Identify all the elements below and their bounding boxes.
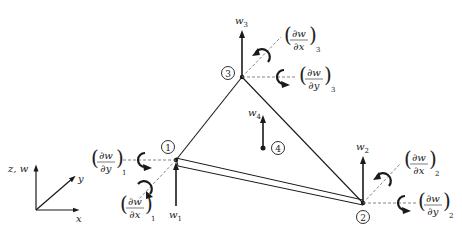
svg-text:∂y: ∂y [309, 80, 320, 91]
svg-text:∂w: ∂w [128, 196, 142, 207]
plate-element-diagram: z, w y x 3 w3 ( ∂w ∂x ) [0, 0, 462, 240]
svg-text:): ) [324, 63, 332, 87]
w3-label: w3 [235, 15, 248, 29]
x-axis-label: x [76, 213, 82, 224]
node-2-dwdx-label: ( ∂w ∂x ) 2 [404, 147, 439, 178]
node-3-dwdy-label: ( ∂w ∂y ) 3 [299, 63, 335, 94]
node-2-dwdy-label: ( ∂w ∂y ) 2 [418, 189, 453, 220]
node-2-x-dash [363, 163, 401, 203]
svg-text:): ) [429, 147, 437, 171]
svg-text:(: ( [120, 192, 128, 216]
triangle-element [176, 77, 363, 205]
svg-text:∂x: ∂x [294, 41, 305, 52]
edge-3-1 [176, 77, 242, 160]
node-1-dwdx-label: ( ∂w ∂x ) 1 [120, 192, 155, 223]
svg-text:∂y: ∂y [101, 163, 112, 174]
svg-text:∂w: ∂w [412, 152, 426, 163]
svg-text:∂y: ∂y [428, 206, 439, 217]
svg-text:1: 1 [122, 169, 126, 177]
w1-label: w1 [169, 209, 182, 223]
edge-3-2 [242, 77, 363, 203]
coordinate-axes: z, w y x [7, 163, 84, 224]
svg-text:): ) [145, 192, 153, 216]
node-2-label: 2 [360, 213, 366, 223]
svg-text:∂x: ∂x [414, 165, 425, 176]
svg-text:∂w: ∂w [99, 150, 113, 161]
node-1-dwdy-label: ( ∂w ∂y ) 1 [91, 146, 126, 177]
svg-text:2: 2 [449, 212, 453, 220]
y-axis [36, 178, 73, 210]
node-4: 4 w4 [248, 107, 285, 155]
svg-text:): ) [309, 23, 317, 47]
y-axis-label: y [77, 173, 84, 184]
w4-label: w4 [248, 107, 262, 121]
svg-text:(: ( [299, 63, 307, 87]
svg-text:∂x: ∂x [130, 209, 141, 220]
z-axis-label: z, w [7, 163, 29, 174]
node-4-label: 4 [275, 144, 281, 154]
node-1-label: 1 [165, 143, 171, 153]
node-2: 2 w2 ( ∂w ∂x ) 2 ( ∂w ∂y ) 2 [356, 141, 453, 224]
svg-text:3: 3 [331, 86, 335, 94]
svg-text:(: ( [284, 23, 292, 47]
svg-text:(: ( [91, 146, 99, 170]
svg-text:): ) [116, 146, 124, 170]
node-3-dwdx-label: ( ∂w ∂x ) 3 [284, 23, 320, 54]
svg-text:(: ( [404, 147, 412, 171]
svg-text:∂w: ∂w [292, 28, 306, 39]
svg-text:∂w: ∂w [307, 67, 321, 78]
node-1: 1 w1 ( ∂w ∂y ) 1 ( ∂w ∂x ) 1 [91, 141, 182, 224]
svg-text:2: 2 [435, 170, 439, 178]
svg-text:): ) [443, 189, 451, 213]
svg-text:∂w: ∂w [426, 193, 440, 204]
edge-1-2-top [176, 158, 363, 200]
svg-text:(: ( [418, 189, 426, 213]
w2-label: w2 [356, 141, 369, 155]
node-3-label: 3 [225, 69, 231, 79]
edge-1-2-bottom [178, 166, 363, 205]
svg-text:1: 1 [151, 215, 155, 223]
node-3-x-dash [242, 37, 281, 77]
svg-text:3: 3 [316, 46, 320, 54]
